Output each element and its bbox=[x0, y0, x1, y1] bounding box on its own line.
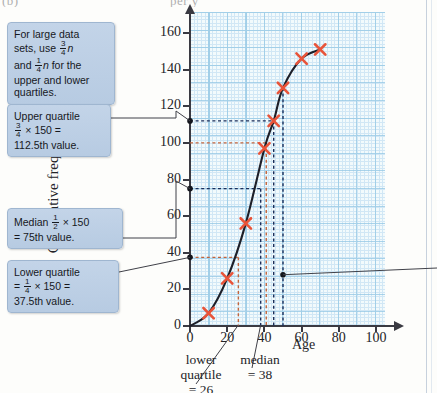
data-point-cross bbox=[296, 53, 306, 63]
fraction-1-over-4: 14 bbox=[35, 57, 41, 74]
data-point-cross bbox=[278, 83, 288, 93]
data-point-cross bbox=[222, 273, 232, 283]
callout-upper-quartile: Upper quartile34 × 150 =112.5th value. bbox=[7, 104, 111, 157]
callout-median: Median 12 × 150= 75th value. bbox=[7, 208, 123, 249]
cumulative-frequency-curve bbox=[190, 50, 320, 327]
callout-line: quartiles. bbox=[14, 86, 108, 98]
callout-line: sets, use 34n bbox=[14, 40, 108, 57]
leader-upper-quartile-tip bbox=[176, 111, 190, 121]
annotation-line: = 26 bbox=[165, 382, 237, 393]
callout-line: Median 12 × 150 bbox=[14, 214, 116, 231]
fraction-3-over-4: 34 bbox=[60, 40, 66, 57]
data-point-cross bbox=[203, 308, 213, 318]
data-point-cross bbox=[315, 44, 325, 54]
annotation-median: median= 38 bbox=[222, 352, 298, 382]
callout-large-data-sets: For large datasets, use 34nand 14n for t… bbox=[7, 22, 115, 105]
fraction-1-over-4: 14 bbox=[24, 278, 30, 295]
callout-line: 34 × 150 = bbox=[14, 122, 104, 139]
data-point-markers bbox=[203, 44, 325, 318]
fraction-3-over-4: 34 bbox=[15, 122, 21, 139]
callout-line: 37.5th value. bbox=[14, 295, 112, 307]
leader-lower-quartile bbox=[119, 257, 190, 272]
annotation-line: median bbox=[222, 352, 298, 367]
callout-leader-lines bbox=[111, 111, 437, 384]
fraction-1-over-2: 12 bbox=[52, 214, 58, 231]
callout-line: = 14 × 150 = bbox=[14, 278, 112, 295]
callout-line: upper and lower bbox=[14, 74, 108, 86]
annotation-line: = 38 bbox=[222, 367, 298, 382]
guide-lines bbox=[190, 88, 283, 326]
callout-line: and 14n for the bbox=[14, 57, 108, 74]
callout-line: Upper quartile bbox=[14, 110, 104, 122]
callout-line: = 75th value. bbox=[14, 231, 116, 243]
leader-median-tip bbox=[176, 181, 190, 189]
leader-upper-quartile-reading bbox=[283, 268, 437, 275]
figure-page: (b) per y 020406080100120140160 02040608… bbox=[0, 0, 437, 393]
callout-lower-quartile: Lower quartile= 14 × 150 =37.5th value. bbox=[7, 260, 119, 313]
callout-line: 112.5th value. bbox=[14, 139, 104, 151]
